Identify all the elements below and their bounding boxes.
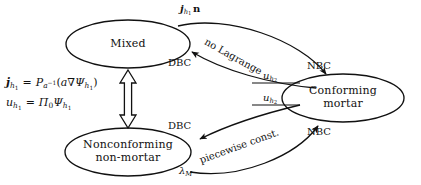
edge-label-u-h2-upper: uh2 [263, 71, 277, 84]
arrow-conforming-to-nonconforming [200, 105, 300, 139]
diagram-canvas: Mixed Conforming mortar Nonconforming no… [0, 0, 421, 185]
formula-flux-projection: jh1=Pa−1(a∇Ψh1) [6, 76, 97, 91]
node-label-conforming: Conforming mortar [288, 84, 398, 110]
edge-label-dbc-bottom: DBC [168, 121, 191, 132]
bidirectional-arrow-mixed-nonconforming [120, 70, 136, 128]
edge-label-u-h2-lower: uh2 [263, 93, 277, 106]
edge-label-lambda-m: λM [179, 166, 192, 178]
edge-label-flux-normal: jh1n [180, 4, 200, 17]
node-label-mixed: Mixed [78, 37, 178, 50]
edge-label-nbc-bottom: NBC [307, 127, 331, 138]
edge-label-dbc-top: DBC [168, 58, 191, 69]
edge-label-nbc-top: NBC [307, 61, 331, 72]
formula-displacement-projection: uh1=Π0Ψh1 [6, 96, 71, 111]
node-label-nonconforming: Nonconforming non-mortar [68, 138, 188, 164]
